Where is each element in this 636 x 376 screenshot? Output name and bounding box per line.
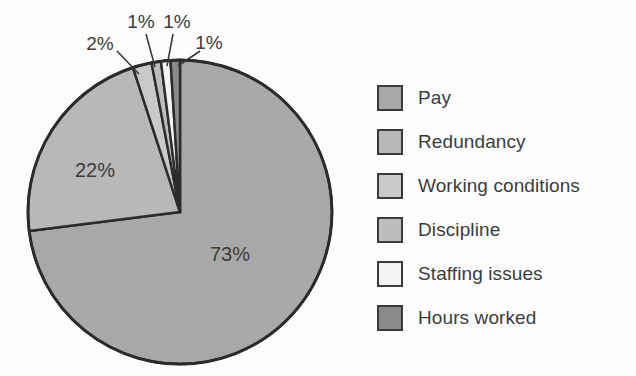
- legend-label: Hours worked: [418, 307, 536, 329]
- legend-label: Redundancy: [418, 131, 526, 153]
- pie-label-working-conditions: 2%: [86, 33, 113, 55]
- legend-item-pay[interactable]: Pay: [377, 76, 627, 120]
- legend-item-redundancy[interactable]: Redundancy: [377, 120, 627, 164]
- legend-label: Discipline: [418, 219, 500, 241]
- pie-label-pay: 73%: [210, 243, 250, 266]
- legend-swatch-icon: [377, 305, 403, 331]
- legend-label: Pay: [418, 87, 451, 109]
- legend-item-staffing-issues[interactable]: Staffing issues: [377, 252, 627, 296]
- legend-label: Staffing issues: [418, 263, 543, 285]
- legend-swatch-icon: [377, 217, 403, 243]
- legend-item-hours-worked[interactable]: Hours worked: [377, 296, 627, 340]
- pie-label-staffing-issues: 1%: [163, 11, 190, 33]
- legend-item-working-conditions[interactable]: Working conditions: [377, 164, 627, 208]
- pie-label-hours-worked: 1%: [195, 32, 222, 54]
- pie-label-redundancy: 22%: [75, 159, 115, 182]
- legend-item-discipline[interactable]: Discipline: [377, 208, 627, 252]
- chart-legend: Pay Redundancy Working conditions Discip…: [377, 76, 627, 340]
- legend-swatch-icon: [377, 173, 403, 199]
- legend-label: Working conditions: [418, 175, 580, 197]
- legend-swatch-icon: [377, 261, 403, 287]
- legend-swatch-icon: [377, 85, 403, 111]
- legend-swatch-icon: [377, 129, 403, 155]
- pie-label-discipline: 1%: [127, 11, 154, 33]
- pie-chart-figure: 73% 22% 2% 1% 1% 1% Pay Redundancy Worki…: [0, 0, 636, 376]
